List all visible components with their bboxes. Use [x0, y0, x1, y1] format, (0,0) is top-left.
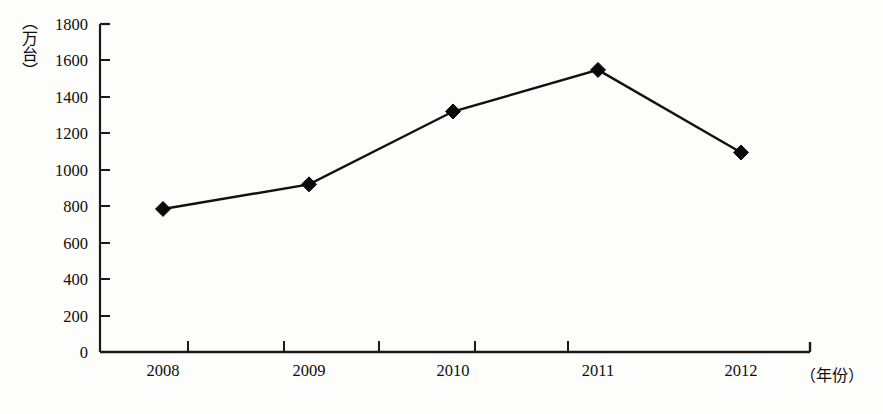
data-point-marker	[446, 104, 461, 119]
line-chart: （万台） 1800 1600 1400 1200 1000 800 600 40…	[0, 0, 883, 414]
data-point-marker	[156, 201, 171, 216]
series-markers	[156, 62, 749, 216]
series-line	[163, 70, 741, 209]
plot-area	[0, 0, 883, 414]
x-axis-ticks	[188, 341, 568, 352]
data-point-marker	[591, 62, 606, 77]
data-point-marker	[302, 177, 317, 192]
y-axis-ticks	[100, 60, 110, 316]
data-point-marker	[734, 145, 749, 160]
